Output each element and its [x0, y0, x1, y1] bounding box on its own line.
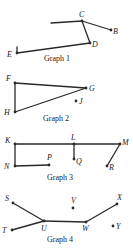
edge-w-x	[86, 204, 117, 222]
vertex-w	[85, 221, 88, 224]
vertex-p	[48, 164, 51, 167]
vertex-l	[73, 143, 76, 146]
graphs-figure: C B D E Graph 1 F G H J Graph 2 K L	[0, 0, 133, 248]
caption-graph-2: Graph 2	[43, 114, 69, 123]
vertex-v	[72, 207, 75, 210]
edge-n-p	[15, 165, 49, 166]
vertex-t	[11, 229, 14, 232]
caption-graph-4: Graph 4	[47, 235, 73, 244]
vertex-f	[14, 82, 17, 85]
label-d: D	[91, 40, 98, 49]
label-l: L	[70, 133, 76, 142]
vertex-e	[16, 52, 19, 55]
edge-u-w	[44, 221, 86, 222]
vertex-y	[112, 225, 115, 228]
graph-3: K L M N P Q R Graph 3	[3, 133, 130, 182]
label-y: Y	[116, 222, 122, 231]
vertex-b	[110, 29, 113, 32]
label-p: P	[46, 153, 52, 162]
caption-graph-3: Graph 3	[47, 173, 73, 182]
label-h: H	[3, 108, 11, 117]
graph-1: C B D E Graph 1	[6, 10, 118, 63]
label-u: U	[41, 224, 48, 233]
label-s: S	[5, 194, 9, 203]
vertex-n	[14, 165, 17, 168]
vertex-d	[89, 42, 92, 45]
vertex-m	[119, 143, 122, 146]
edge-c-open	[51, 21, 82, 23]
edge-t-u	[12, 221, 44, 230]
label-t: T	[2, 226, 7, 235]
vertex-x	[116, 203, 119, 206]
vertex-c	[81, 20, 84, 23]
label-m: M	[121, 138, 130, 147]
label-e: E	[6, 50, 12, 59]
edge-d-e	[17, 43, 90, 53]
edge-s-u	[13, 203, 44, 221]
vertex-g	[85, 87, 88, 90]
label-c: C	[79, 10, 85, 19]
label-x: X	[116, 193, 123, 202]
vertex-q	[73, 158, 76, 161]
label-b: B	[113, 27, 118, 36]
label-g: G	[89, 84, 95, 93]
vertex-h	[14, 111, 17, 114]
vertex-r	[106, 165, 109, 168]
edge-c-b	[82, 21, 111, 30]
vertex-s	[12, 202, 15, 205]
edge-c-d	[82, 21, 90, 43]
caption-graph-1: Graph 1	[44, 54, 70, 63]
edge-f-g	[15, 83, 86, 88]
graph-2: F G H J Graph 2	[3, 74, 95, 123]
label-k: K	[4, 136, 11, 145]
vertex-j	[75, 100, 78, 103]
label-n: N	[3, 162, 10, 171]
label-f: F	[5, 74, 11, 83]
label-j: J	[79, 97, 83, 106]
graph-4: S T U V W X Y Graph 4	[2, 193, 123, 244]
label-v: V	[71, 196, 77, 205]
label-r: R	[108, 163, 114, 172]
label-q: Q	[76, 157, 82, 166]
label-w: W	[82, 224, 90, 233]
vertex-k	[14, 143, 17, 146]
vertex-u	[43, 220, 46, 223]
